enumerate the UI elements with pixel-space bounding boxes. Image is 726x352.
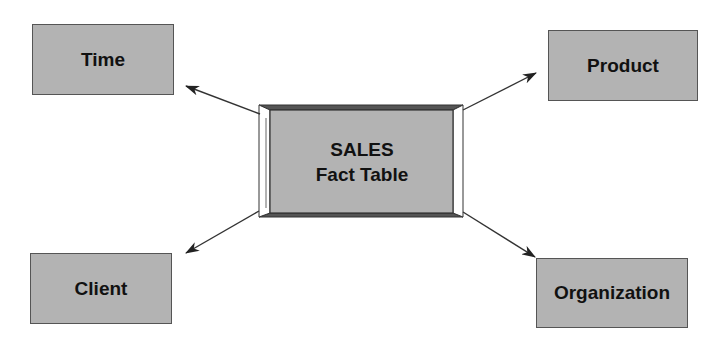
arrow-to-organization	[463, 212, 535, 257]
dimension-label: Product	[587, 55, 659, 77]
arrow-to-product	[463, 73, 536, 110]
dimension-client: Client	[30, 253, 172, 324]
sales-fact-table: SALES Fact Table	[270, 110, 454, 213]
dimension-organization: Organization	[536, 258, 688, 328]
fact-table-title: SALES	[330, 137, 393, 162]
dimension-time: Time	[32, 24, 174, 95]
fact-table-subtitle: Fact Table	[316, 162, 409, 187]
arrow-to-client	[186, 211, 259, 253]
dimension-label: Organization	[554, 282, 670, 304]
dimension-label: Time	[81, 49, 125, 71]
dimension-label: Client	[75, 278, 128, 300]
arrow-to-time	[186, 86, 260, 114]
dimension-product: Product	[548, 30, 698, 101]
